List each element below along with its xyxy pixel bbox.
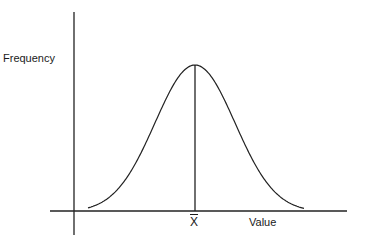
bell-curve-diagram xyxy=(0,0,365,242)
normal-curve xyxy=(88,65,304,208)
y-axis-label: Frequency xyxy=(3,52,55,64)
x-axis-label: Value xyxy=(249,216,276,228)
mean-label: X xyxy=(190,215,198,229)
